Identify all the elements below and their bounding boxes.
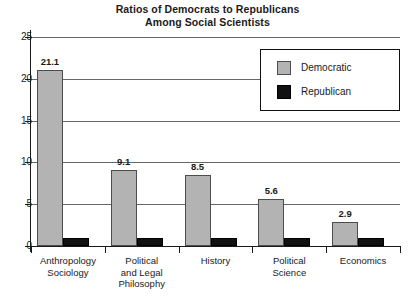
- x-tick-mark: [105, 246, 106, 253]
- bar-republican: [137, 238, 163, 246]
- x-tick-mark: [179, 246, 180, 253]
- x-tick-mark: [400, 246, 401, 253]
- chart-title: Ratios of Democrats to Republicans Among…: [0, 3, 415, 29]
- category-label-line: Science: [246, 267, 332, 279]
- x-tick-mark: [31, 246, 32, 253]
- x-tick-mark: [326, 246, 327, 253]
- y-tick-label: 15: [8, 116, 32, 126]
- bar-value-label: 21.1: [29, 57, 71, 67]
- bar-republican: [63, 238, 89, 246]
- x-tick-mark: [252, 246, 253, 253]
- category-label: Economics: [320, 255, 406, 267]
- legend-swatch-republican-icon: [277, 85, 291, 99]
- chart-title-line-2: Among Social Scientists: [0, 16, 415, 29]
- bar-value-label: 5.6: [250, 186, 292, 196]
- legend-swatch-democratic-icon: [277, 61, 291, 75]
- bar-chart: Ratios of Democrats to Republicans Among…: [0, 0, 415, 307]
- bar-democratic: [185, 175, 211, 246]
- legend-label-republican: Republican: [301, 86, 351, 98]
- bar-democratic: [37, 70, 63, 246]
- bar-value-label: 2.9: [324, 209, 366, 219]
- bar-republican: [358, 238, 384, 246]
- gridline: [31, 204, 400, 205]
- bar-democratic: [111, 170, 137, 246]
- y-tick-label: 5: [8, 199, 32, 209]
- y-tick-label: 10: [8, 157, 32, 167]
- chart-title-line-1: Ratios of Democrats to Republicans: [0, 3, 415, 16]
- bar-value-label: 8.5: [177, 162, 219, 172]
- gridline: [31, 121, 400, 122]
- category-label-line: Philosophy: [99, 278, 185, 290]
- y-tick-label: 20: [8, 74, 32, 84]
- legend-label-democratic: Democratic: [301, 62, 352, 74]
- category-label-line: Economics: [320, 255, 406, 267]
- x-axis-line: [31, 246, 400, 247]
- bar-republican: [284, 238, 310, 246]
- bar-value-label: 9.1: [103, 157, 145, 167]
- bar-democratic: [258, 199, 284, 246]
- chart-legend: Democratic Republican: [260, 49, 400, 111]
- bar-democratic: [332, 222, 358, 246]
- category-label-line: and Legal: [99, 267, 185, 279]
- gridline: [31, 37, 400, 38]
- y-tick-label: 0: [8, 241, 32, 251]
- y-tick-label: 25: [8, 32, 32, 42]
- bar-republican: [211, 238, 237, 246]
